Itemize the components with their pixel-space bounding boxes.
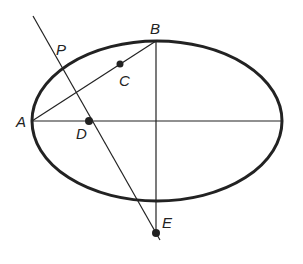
point-e	[152, 229, 160, 237]
ellipse-construction-diagram	[0, 0, 303, 264]
label-a: A	[16, 114, 26, 129]
label-c: C	[119, 73, 130, 88]
point-d	[85, 117, 93, 125]
label-b: B	[150, 21, 160, 36]
label-d: D	[76, 126, 87, 141]
label-e: E	[162, 215, 172, 230]
label-p: P	[56, 42, 66, 57]
point-c	[117, 61, 124, 68]
